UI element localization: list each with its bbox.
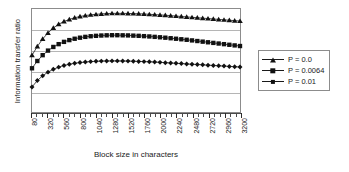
x-tick [90, 113, 91, 117]
x-tick [236, 113, 237, 117]
data-point [136, 34, 140, 38]
legend-label: P = 0.0064 [288, 66, 324, 75]
x-tick-label: 1520 [123, 118, 133, 146]
x-tick-label-text: 800 [80, 118, 87, 130]
x-tick [150, 113, 151, 117]
legend: P = 0.0P = 0.0064P = 0.01 [258, 50, 330, 91]
data-point [67, 38, 71, 42]
data-point [184, 38, 188, 42]
data-point [56, 22, 62, 27]
x-tick-label: 1040 [91, 118, 101, 146]
data-point [195, 39, 199, 43]
data-point [35, 44, 41, 49]
data-point [179, 37, 183, 41]
data-point [126, 59, 131, 64]
data-point [190, 38, 194, 42]
x-tick [123, 113, 124, 117]
legend-item-0[interactable]: P = 0.0 [262, 54, 324, 65]
chart-figure: Information transfer ratio 8032056080010… [0, 0, 349, 172]
data-point [104, 59, 109, 64]
data-point [62, 63, 67, 68]
data-point [40, 53, 44, 57]
x-tick-label-text: 3200 [241, 118, 248, 134]
x-axis-tick-labels: 8032056080010401280152017602000224024802… [31, 118, 241, 146]
data-point [174, 37, 178, 41]
x-tick [58, 113, 59, 117]
x-tick [53, 113, 54, 117]
data-point [72, 61, 77, 66]
x-tick [230, 113, 231, 117]
data-point [179, 61, 184, 66]
x-tick [85, 113, 86, 117]
data-point [67, 62, 72, 67]
data-point [200, 39, 204, 43]
data-point [168, 36, 172, 40]
data-point [184, 61, 189, 66]
data-point [227, 43, 231, 47]
data-point [30, 66, 34, 70]
data-point [104, 33, 108, 37]
x-tick-label-text: 560 [63, 118, 70, 130]
data-point [131, 59, 136, 64]
data-point [168, 60, 173, 65]
x-tick-label: 2720 [204, 118, 214, 146]
x-tick-label: 560 [58, 118, 68, 146]
data-point [94, 34, 98, 38]
x-tick-label: 2240 [171, 118, 181, 146]
x-tick [187, 113, 188, 117]
data-point [206, 40, 210, 44]
data-point [163, 60, 168, 65]
data-point [216, 41, 220, 45]
x-tick [117, 113, 118, 117]
data-point [131, 33, 135, 37]
x-tick-label: 800 [75, 118, 85, 146]
data-point [216, 63, 221, 68]
legend-item-1[interactable]: P = 0.0064 [262, 65, 324, 76]
x-tick-label: 2480 [188, 118, 198, 146]
data-point [51, 67, 56, 72]
x-tick [166, 113, 167, 117]
x-tick-label-text: 80 [31, 118, 38, 126]
data-point [142, 34, 146, 38]
y-axis-title-text: Information transfer ratio [13, 19, 22, 103]
data-point [147, 59, 152, 64]
x-tick [106, 113, 107, 117]
data-point [110, 33, 114, 37]
data-point [190, 62, 195, 67]
data-point [99, 33, 103, 37]
data-point [46, 48, 50, 52]
x-tick [42, 113, 43, 117]
data-point [62, 40, 66, 44]
data-point [163, 36, 167, 40]
x-tick-label: 3200 [236, 118, 246, 146]
data-point [61, 19, 67, 24]
data-point [72, 37, 76, 41]
x-tick [214, 113, 215, 117]
data-point [211, 63, 216, 68]
x-tick-label-text: 1520 [128, 118, 135, 134]
data-point [200, 62, 205, 67]
x-tick-label-text: 2960 [225, 118, 232, 134]
data-point [152, 35, 156, 39]
data-point [56, 65, 61, 70]
data-point [83, 35, 87, 39]
x-tick-label-text: 2000 [160, 118, 167, 134]
x-tick-label: 80 [26, 118, 36, 146]
data-point [232, 43, 236, 47]
data-point [120, 33, 124, 37]
x-tick-label: 2960 [220, 118, 230, 146]
x-axis-title: Block size in characters [31, 150, 241, 159]
x-tick-label: 1760 [139, 118, 149, 146]
data-point [78, 36, 82, 40]
data-point [99, 59, 104, 64]
data-point [227, 64, 232, 69]
data-point [147, 34, 151, 38]
legend-item-2[interactable]: P = 0.01 [262, 76, 324, 87]
x-tick-label: 1280 [107, 118, 117, 146]
x-tick [220, 113, 221, 117]
data-point [222, 42, 226, 46]
x-tick [101, 113, 102, 117]
data-point [115, 58, 120, 63]
data-point [174, 61, 179, 66]
x-tick [133, 113, 134, 117]
